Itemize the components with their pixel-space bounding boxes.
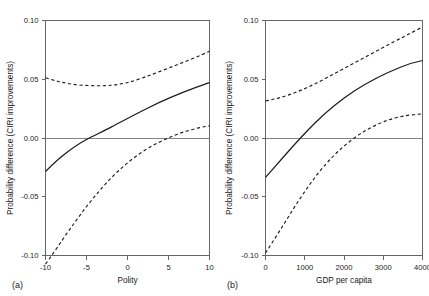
panel-b-label: (b) <box>227 280 238 290</box>
panel-b-xtick-label-3: 3000 <box>374 263 391 272</box>
panel-a-ytick-label-0: 0.10 <box>24 16 39 25</box>
panel-b-x-axis <box>265 256 422 260</box>
panel-a-upper-ci-curve <box>46 51 210 86</box>
panel-a-ytick-label-1: 0.05 <box>24 75 39 84</box>
panel-a-xtick-label-2: 0 <box>125 263 129 272</box>
panel-b-plot: 0.10 0.05 0.00 -0.05 -0.10 0 1000 2000 3… <box>215 0 429 296</box>
two-panel-figure: 0.10 0.05 0.00 -0.05 -0.10 -10 -5 0 5 10… <box>0 0 429 296</box>
panel-b-xtick-label-0: 0 <box>263 263 267 272</box>
panel-a-plot: 0.10 0.05 0.00 -0.05 -0.10 -10 -5 0 5 10… <box>0 0 215 296</box>
panel-b-lower-ci-curve <box>265 114 422 253</box>
panel-b-ytick-label-2: 0.00 <box>243 134 258 143</box>
panel-b-ytick-label-1: 0.05 <box>243 75 258 84</box>
panel-b-xtick-label-1: 1000 <box>296 263 313 272</box>
panel-a-estimate-curve <box>46 83 210 172</box>
panel-a-ytick-label-4: -0.10 <box>21 251 38 260</box>
panel-a: 0.10 0.05 0.00 -0.05 -0.10 -10 -5 0 5 10… <box>0 0 215 296</box>
panel-b-xtick-label-2: 2000 <box>335 263 352 272</box>
panel-a-xtick-label-0: -10 <box>40 263 51 272</box>
panel-a-label: (a) <box>12 280 23 290</box>
panel-b-ytick-label-3: -0.05 <box>241 192 258 201</box>
panel-b-ytick-label-4: -0.10 <box>241 251 258 260</box>
panel-a-y-axis <box>42 21 46 256</box>
panel-a-lower-ci-curve <box>46 126 210 264</box>
panel-b-xtick-label-4: 4000 <box>414 263 429 272</box>
panel-a-xtick-label-4: 10 <box>205 263 213 272</box>
panel-a-ytick-label-2: 0.00 <box>24 134 39 143</box>
panel-b-y-axis <box>261 21 265 256</box>
panel-a-x-axis <box>46 256 210 260</box>
panel-b-estimate-curve <box>265 61 422 178</box>
panel-b-ytick-label-0: 0.10 <box>243 16 258 25</box>
panel-b-x-axis-title: GDP per capita <box>316 276 372 285</box>
panel-b-upper-ci-curve <box>265 27 422 101</box>
panel-a-y-axis-title: Probability difference (CIRI improvement… <box>6 61 15 215</box>
panel-a-ytick-label-3: -0.05 <box>21 192 38 201</box>
panel-a-xtick-label-3: 5 <box>166 263 170 272</box>
panel-b: 0.10 0.05 0.00 -0.05 -0.10 0 1000 2000 3… <box>215 0 429 296</box>
panel-a-xtick-label-1: -5 <box>83 263 90 272</box>
panel-b-y-axis-title: Probability difference (CIRI improvement… <box>225 61 234 215</box>
panel-a-x-axis-title: Polity <box>117 276 138 285</box>
